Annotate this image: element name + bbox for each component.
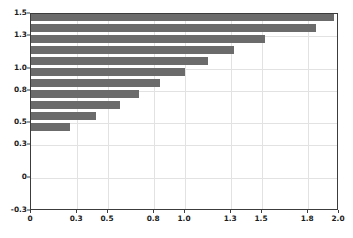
x-tick-label: 1.8 xyxy=(301,215,314,222)
y-tick-mark xyxy=(27,67,30,68)
x-tick-mark xyxy=(307,210,308,213)
gridline-horizontal xyxy=(31,145,337,146)
bar-chart: -0.300.30.50.81.01.31.5 00.30.50.81.01.3… xyxy=(0,0,353,238)
bar xyxy=(31,35,265,43)
gridline-horizontal xyxy=(31,123,337,124)
x-axis: 00.30.50.81.01.31.51.82.0 xyxy=(30,215,338,229)
x-tick-mark xyxy=(76,210,77,213)
plot-area xyxy=(30,13,338,210)
bar xyxy=(31,90,139,98)
x-tick-label: 0.3 xyxy=(70,215,83,222)
x-tick-mark xyxy=(184,210,185,213)
x-tick-label: 1.5 xyxy=(254,215,267,222)
x-tick-mark xyxy=(30,210,31,213)
y-tick-mark xyxy=(27,13,30,14)
y-tick-label: -0.3 xyxy=(1,206,27,213)
y-tick-mark xyxy=(27,144,30,145)
y-tick-label: 0.3 xyxy=(1,141,27,148)
y-tick-label: 0 xyxy=(1,173,27,180)
y-tick-mark xyxy=(27,34,30,35)
y-axis: -0.300.30.50.81.01.31.5 xyxy=(0,13,27,210)
y-tick-label: 1.5 xyxy=(1,9,27,16)
x-tick-label: 2.0 xyxy=(331,215,344,222)
x-tick-mark xyxy=(153,210,154,213)
bar xyxy=(31,24,316,32)
bar xyxy=(31,57,208,65)
bar xyxy=(31,79,160,87)
x-tick-label: 1.3 xyxy=(224,215,237,222)
gridline-vertical xyxy=(308,14,309,209)
x-tick-mark xyxy=(230,210,231,213)
bar xyxy=(31,68,185,76)
gridline-horizontal xyxy=(31,178,337,179)
bar xyxy=(31,46,234,54)
bar xyxy=(31,112,96,120)
y-tick-mark xyxy=(27,122,30,123)
bar xyxy=(31,101,120,109)
bar xyxy=(31,123,70,131)
y-tick-mark xyxy=(27,177,30,178)
y-tick-label: 1.3 xyxy=(1,31,27,38)
x-tick-label: 0.5 xyxy=(100,215,113,222)
x-tick-mark xyxy=(261,210,262,213)
x-tick-label: 1.0 xyxy=(177,215,190,222)
x-tick-mark xyxy=(107,210,108,213)
x-tick-mark xyxy=(338,210,339,213)
y-tick-label: 1.0 xyxy=(1,64,27,71)
y-tick-label: 0.5 xyxy=(1,119,27,126)
y-tick-label: 0.8 xyxy=(1,86,27,93)
y-tick-mark xyxy=(27,89,30,90)
bar xyxy=(31,13,334,21)
x-tick-label: 0.8 xyxy=(147,215,160,222)
x-tick-label: 0 xyxy=(27,215,32,222)
